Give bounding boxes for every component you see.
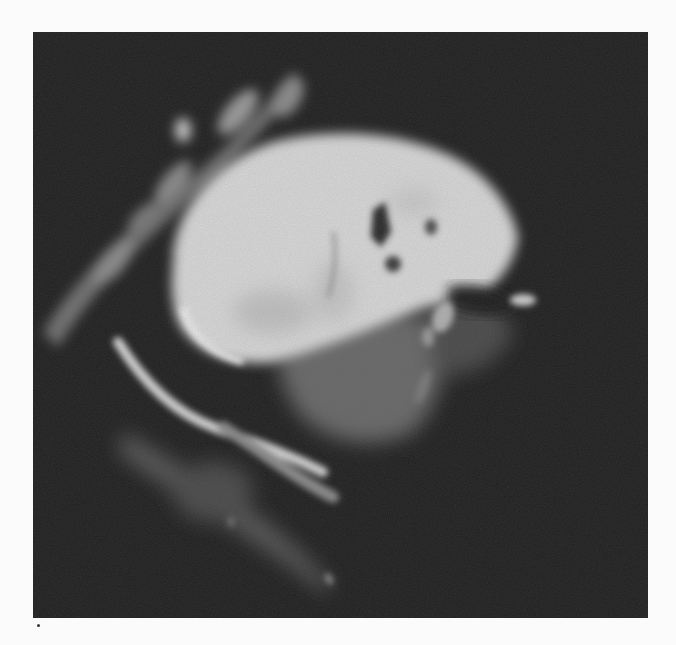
- speck-mark: [37, 624, 40, 627]
- page: Sagittal-like grayscale MR image of a la…: [0, 0, 676, 645]
- scan-image: [33, 32, 648, 618]
- scan-graphic: [33, 32, 648, 618]
